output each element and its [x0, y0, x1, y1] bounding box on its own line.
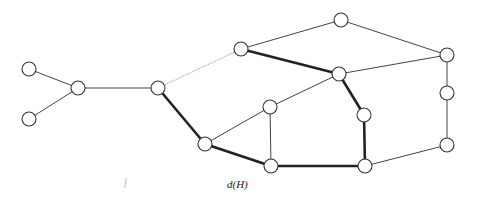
node-L [357, 108, 371, 122]
edge-H-I [270, 74, 339, 107]
node-H [263, 100, 277, 114]
node-E [234, 42, 248, 56]
node-A [22, 62, 36, 76]
caption-label: d(H) [227, 178, 248, 190]
node-O [440, 138, 454, 152]
edge-D-E [158, 49, 241, 88]
node-D [151, 81, 165, 95]
edges-group [29, 20, 447, 166]
graph-diagram [0, 0, 478, 197]
edge-I-J [339, 55, 447, 74]
edge-F-J [341, 20, 447, 55]
node-C [71, 81, 85, 95]
node-K [440, 86, 454, 100]
node-M [264, 159, 278, 173]
edge-B-C [29, 88, 78, 119]
node-B [22, 112, 36, 126]
node-F [334, 13, 348, 27]
edge-G-H [205, 107, 270, 144]
edge-L-N [364, 115, 365, 166]
nodes-group [22, 13, 454, 173]
node-G [198, 137, 212, 151]
node-J [440, 48, 454, 62]
edge-H-M [270, 107, 271, 166]
edge-N-O [365, 145, 447, 166]
edge-G-M [205, 144, 271, 166]
edge-D-G [158, 88, 205, 144]
edge-A-C [29, 69, 78, 88]
node-N [358, 159, 372, 173]
node-I [332, 67, 346, 81]
edge-E-F [241, 20, 341, 49]
edge-E-I [241, 49, 339, 74]
